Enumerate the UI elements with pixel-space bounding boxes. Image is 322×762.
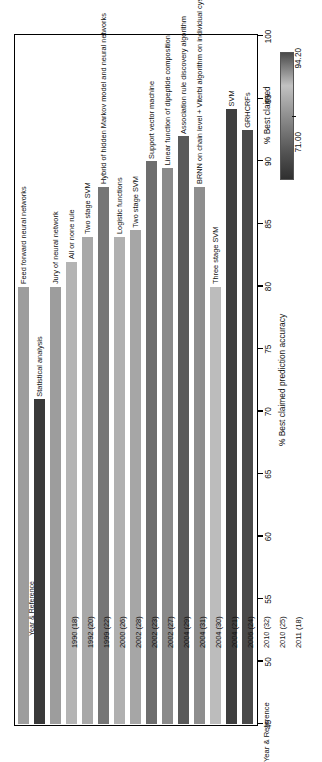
- bar-value-label: Linear function of dipeptide composition: [164, 35, 171, 168]
- bar: [82, 237, 94, 725]
- bar: [50, 287, 62, 725]
- x-axis-tick-label: 85: [264, 219, 273, 228]
- x-axis-tick: [258, 348, 263, 349]
- x-axis-tick: [258, 660, 263, 661]
- y-axis-title-portrait: Year & Reference: [28, 581, 35, 636]
- y-axis-tick-label-portrait: 2010 (32): [262, 616, 271, 648]
- y-axis-tick-label-portrait: 2000 (26): [118, 616, 127, 648]
- y-axis-tick-label-portrait: 1992 (20): [86, 616, 95, 648]
- bar-value-label: BRNN on chain level + Viterbi algorithm …: [196, 0, 203, 187]
- x-axis-tick-label: 55: [264, 595, 273, 604]
- colorbar-min-label: 71.00: [294, 132, 303, 153]
- colorbar-gradient: [280, 52, 294, 180]
- x-axis-tick-label: 50: [264, 657, 273, 666]
- bar-value-label: Two stage SVM: [84, 182, 91, 236]
- y-axis-tick-label-portrait: 2010 (25): [278, 616, 287, 648]
- y-axis-title: Year & Reference: [262, 702, 271, 762]
- x-axis-tick-label: 70: [264, 407, 273, 416]
- bar-value-label: Jury of neural network: [52, 211, 59, 286]
- category-label-column: Year & Reference1990 (18)1992 (20)1999 (…: [2, 0, 48, 760]
- x-axis-tick: [258, 35, 263, 36]
- y-axis-tick-label-portrait: 2002 (23): [150, 616, 159, 648]
- bar-row: Jury of neural network: [50, 36, 62, 724]
- bar-value-label: All or none rule: [68, 209, 75, 261]
- bar-value-label: SVM: [228, 90, 235, 109]
- bar-value-label: Support vector machine: [148, 81, 155, 162]
- y-axis-tick-label-portrait: 2002 (27): [166, 616, 175, 648]
- bar-value-label: Hybrid of hidden Markov model and neural…: [100, 13, 107, 186]
- bar: [114, 237, 126, 725]
- y-axis-tick-label-portrait: 1990 (18): [70, 616, 79, 648]
- bar-value-label: Association rule discovery algorithm: [180, 16, 187, 136]
- y-axis-tick-label-portrait: 2004 (21): [230, 616, 239, 648]
- bar-value-label: GRHCRFs: [244, 92, 251, 130]
- colorbar-max-label: 94.20: [294, 48, 303, 69]
- y-axis-tick-label-portrait: 2004 (29): [182, 616, 191, 648]
- x-axis-tick-label: 100: [264, 30, 273, 44]
- x-axis-tick-label: 65: [264, 470, 273, 479]
- colorbar-title: % Best claimed: [256, 46, 278, 184]
- x-axis-tick-label: 60: [264, 532, 273, 541]
- y-axis-tick-label-portrait: 2011 (18): [294, 617, 303, 648]
- x-axis-tick: [258, 223, 263, 224]
- bar-value-label: Three stage SVM: [212, 227, 219, 287]
- colorbar-legend: % Best claimed 94.20 71.00: [258, 46, 316, 184]
- y-axis-tick-label-portrait: 2004 (30): [214, 616, 223, 648]
- x-axis-tick: [258, 535, 263, 536]
- y-axis-tick-label-portrait: 2002 (28): [134, 616, 143, 648]
- x-axis-tick: [258, 285, 263, 286]
- y-axis-tick-label-portrait: 1999 (22): [102, 616, 111, 648]
- x-axis-tick-label: 75: [264, 345, 273, 354]
- x-axis-tick-label: 80: [264, 282, 273, 291]
- y-axis-tick-label-portrait: 2004 (31): [198, 616, 207, 648]
- x-axis-tick: [258, 598, 263, 599]
- bar: [210, 287, 222, 725]
- x-axis-tick: [258, 410, 263, 411]
- colorbar-tick: [292, 116, 296, 117]
- bar-value-label: Logistic functions: [116, 177, 123, 236]
- bar: [66, 262, 78, 725]
- x-axis-tick: [258, 473, 263, 474]
- y-axis-tick-label-portrait: 2006 (24): [246, 616, 255, 648]
- bar-value-label: Two stage SVM: [132, 176, 139, 230]
- bar: [130, 230, 142, 724]
